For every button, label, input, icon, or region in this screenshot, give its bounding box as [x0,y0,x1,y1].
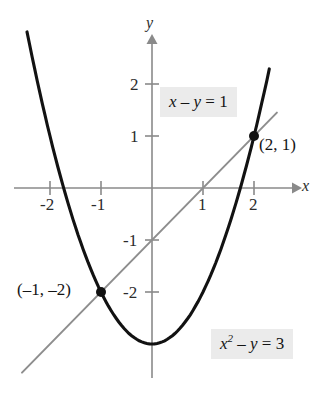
point-label-lower: (–1, –2) [17,281,71,298]
eq-line-equals: = [201,92,219,111]
y-axis-label: y [146,15,153,31]
x-tick-label-2: 2 [249,196,258,213]
x-tick-label-neg2: -2 [40,196,54,213]
y-tick-label-1: 1 [130,128,139,145]
eq-parabola-equals: = [258,334,276,353]
eq-line-value: 1 [219,92,228,111]
eq-parabola-value: 3 [276,334,285,353]
y-axis-arrowhead [147,34,158,44]
equation-label-line: x – y = 1 [160,87,237,117]
eq-parabola-x: x [220,334,228,353]
x-tick-label-neg1: -1 [91,196,105,213]
x-axis-arrowhead [292,183,302,194]
intersection-point-upper [249,131,259,141]
eq-parabola-y: y [250,334,258,353]
y-tick-label-neg1: -1 [123,232,137,249]
equation-label-parabola: x2 – y = 3 [211,329,293,359]
point-label-upper: (2, 1) [259,136,296,153]
graph-figure: x y -2 -1 1 2 2 1 -1 -2 (2, 1) (–1, –2) … [0,0,329,393]
y-tick-label-neg2: -2 [123,284,137,301]
eq-parabola-minus: – [233,334,250,353]
x-tick-label-1: 1 [198,196,207,213]
eq-line-x: x [169,92,177,111]
x-axis-label: x [302,178,309,194]
intersection-point-lower [96,287,106,297]
y-tick-label-2: 2 [130,76,139,93]
eq-line-minus: – [177,92,194,111]
eq-line-y: y [194,92,202,111]
